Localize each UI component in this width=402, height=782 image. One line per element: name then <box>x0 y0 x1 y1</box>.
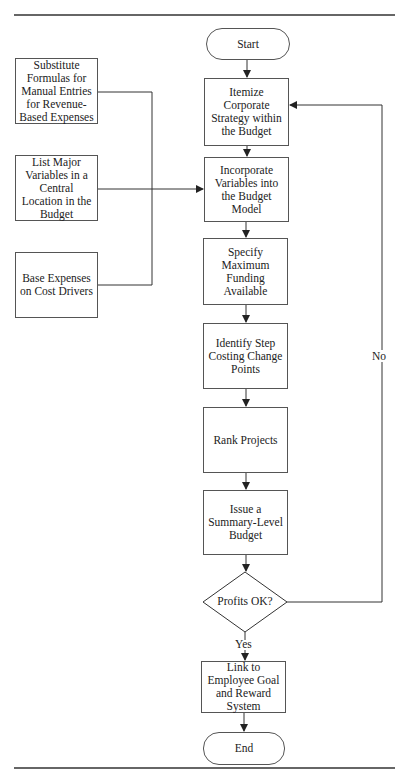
decision-label: Profits OK? <box>217 595 272 607</box>
step-label: Identify Step Costing Change Points <box>206 337 285 376</box>
step-label: Specify Maximum Funding Available <box>206 246 285 298</box>
input-label: Base Expenses on Cost Drivers <box>18 272 95 298</box>
start-terminal: Start <box>206 28 290 60</box>
input-label: Substitute Formulas for Manual Entries f… <box>18 59 95 124</box>
step-label: Rank Projects <box>213 434 277 447</box>
yes-label: Yes <box>235 638 252 650</box>
no-label: No <box>372 350 386 362</box>
step-issue-budget: Issue a Summary-Level Budget <box>203 490 288 555</box>
step-link-employee-goals: Link to Employee Goal and Reward System <box>201 661 286 713</box>
step-label: Link to Employee Goal and Reward System <box>204 661 283 713</box>
step-rank-projects: Rank Projects <box>203 407 288 473</box>
end-terminal: End <box>203 732 285 765</box>
step-incorporate-variables: Incorporate Variables into the Budget Mo… <box>204 157 289 222</box>
step-label: Issue a Summary-Level Budget <box>206 503 285 542</box>
step-itemize-strategy: Itemize Corporate Strategy within the Bu… <box>204 78 289 146</box>
end-label: End <box>235 742 254 755</box>
start-label: Start <box>237 38 259 51</box>
step-identify-change-points: Identify Step Costing Change Points <box>203 323 288 389</box>
input-label: List Major Variables in a Central Locati… <box>18 156 95 221</box>
step-specify-funding: Specify Maximum Funding Available <box>203 238 288 305</box>
input-list-variables: List Major Variables in a Central Locati… <box>15 155 98 221</box>
step-label: Incorporate Variables into the Budget Mo… <box>207 164 286 216</box>
input-base-expenses: Base Expenses on Cost Drivers <box>15 252 98 318</box>
input-substitute-formulas: Substitute Formulas for Manual Entries f… <box>15 58 98 124</box>
step-label: Itemize Corporate Strategy within the Bu… <box>207 86 286 138</box>
decision-profits-ok: Profits OK? <box>203 595 287 607</box>
